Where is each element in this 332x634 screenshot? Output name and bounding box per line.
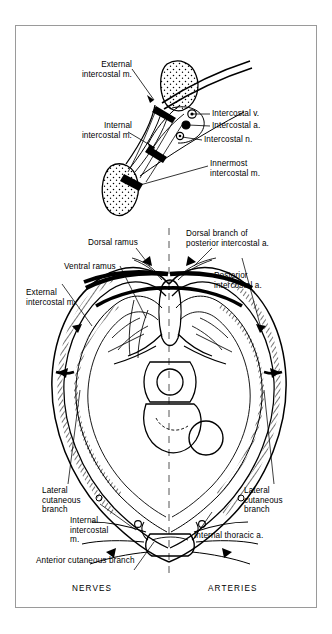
label-lateral-cutaneous-branch-left: Lateral cutaneous branch — [42, 486, 81, 515]
label-internal-intercostal-upper: Internal intercostal m. — [46, 121, 132, 140]
label-posterior-intercostal-artery: Posterior intercostal a. — [214, 271, 262, 290]
label-internal-intercostal-lower: Internal intercostal m. — [70, 516, 108, 545]
label-lateral-cutaneous-branch-right: Lateral cutaneous branch — [244, 486, 283, 515]
label-external-intercostal-upper: External intercostal m. — [52, 60, 132, 79]
label-intercostal-vein: Intercostal v. — [212, 109, 259, 119]
figure-frame: External intercostal m. Internal interco… — [15, 25, 317, 608]
label-dorsal-ramus: Dorsal ramus — [88, 238, 138, 248]
caption-nerves: NERVES — [72, 584, 112, 593]
label-dorsal-branch-posterior-intercostal: Dorsal branch of posterior intercostal a… — [186, 229, 269, 248]
caption-arteries: ARTERIES — [208, 584, 258, 593]
label-external-intercostal-lower: External intercostal m. — [26, 288, 76, 307]
label-innermost-intercostal: Innermost intercostal m. — [210, 159, 260, 178]
label-ventral-ramus: Ventral ramus — [64, 262, 116, 272]
label-internal-thoracic-artery: Internal thoracic a. — [194, 531, 263, 541]
label-intercostal-nerve: Intercostal n. — [204, 135, 252, 145]
label-intercostal-artery: Intercostal a. — [212, 121, 260, 131]
label-anterior-cutaneous-branch: Anterior cutaneous branch — [36, 556, 135, 566]
thoracic-cross-section-drawing — [16, 222, 316, 582]
